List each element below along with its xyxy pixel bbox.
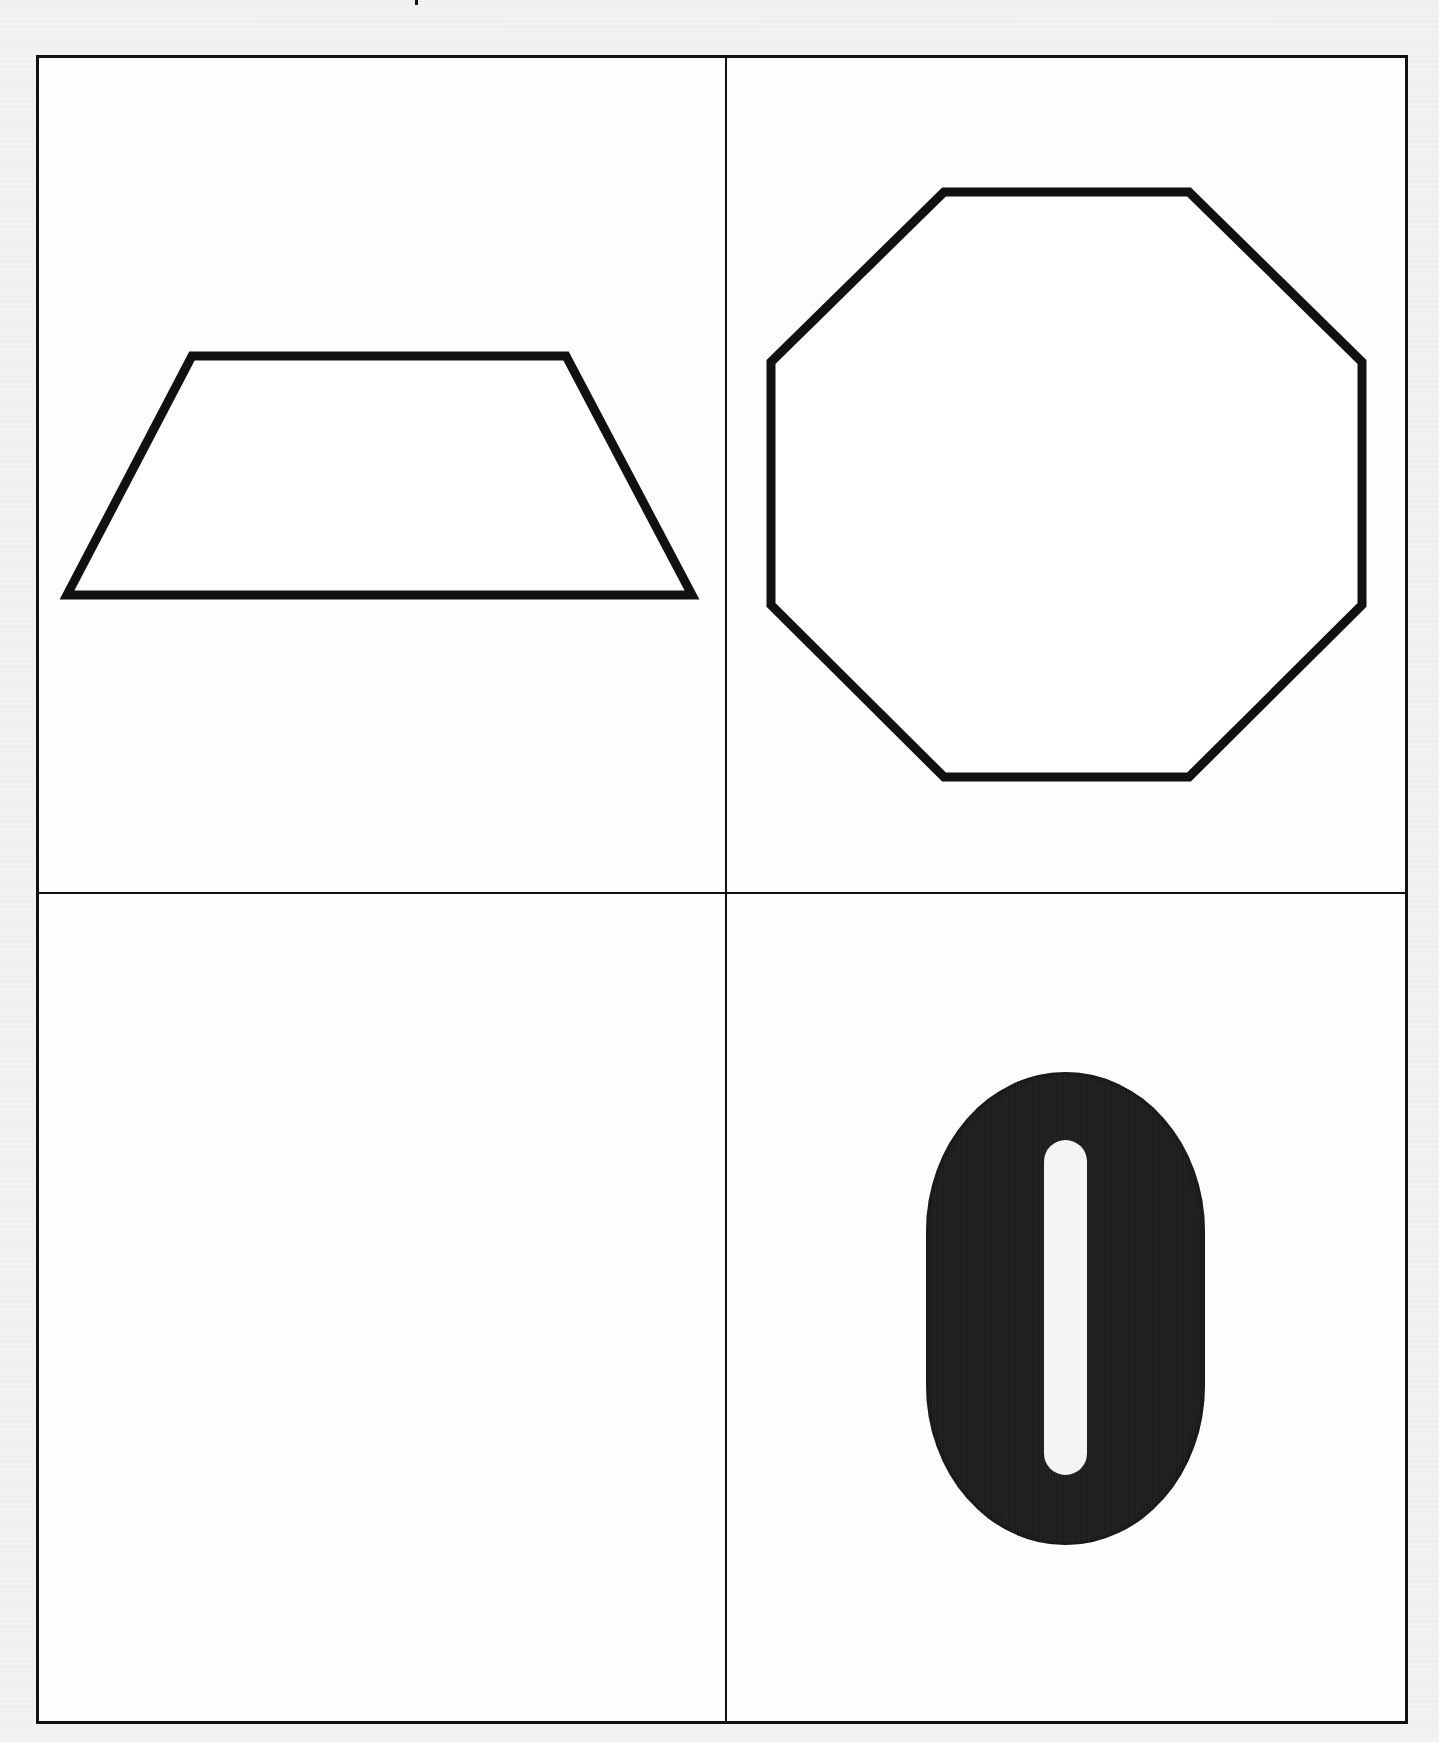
zero-glyph: 0: [926, 1072, 1205, 1545]
shapes-layer: [0, 0, 1439, 1742]
zero-glyph-counter: [1044, 1140, 1087, 1475]
zero-glyph-char: 0: [926, 1072, 927, 1073]
octagon-shape: [771, 192, 1362, 777]
trapezoid-shape: [67, 356, 692, 595]
